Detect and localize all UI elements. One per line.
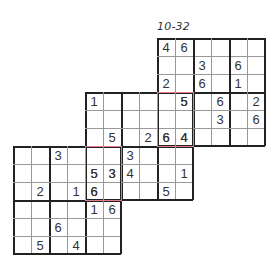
sudoku-cell[interactable] (103, 146, 121, 164)
sudoku-cell[interactable] (157, 146, 175, 164)
sudoku-cell[interactable]: 2 (157, 74, 175, 92)
sudoku-cell[interactable]: 4 (67, 236, 85, 254)
sudoku-cell[interactable] (31, 164, 49, 182)
sudoku-cell[interactable]: 1 (229, 74, 247, 92)
sudoku-cell[interactable]: 6 (211, 92, 229, 110)
sudoku-cell[interactable]: 5 (85, 164, 103, 182)
sudoku-cell[interactable] (85, 146, 103, 164)
sudoku-cell[interactable]: 6 (103, 200, 121, 218)
sudoku-cell[interactable] (13, 146, 31, 164)
sudoku-cell[interactable] (139, 92, 157, 110)
sudoku-cell[interactable]: 5 (157, 182, 175, 200)
sudoku-cell[interactable] (229, 92, 247, 110)
sudoku-cell[interactable] (49, 200, 67, 218)
sudoku-cell[interactable] (49, 236, 67, 254)
sudoku-cell[interactable]: 2 (247, 92, 265, 110)
sudoku-cell[interactable] (211, 38, 229, 56)
sudoku-cell[interactable] (139, 164, 157, 182)
sudoku-cell[interactable]: 6 (247, 110, 265, 128)
sudoku-cell[interactable] (175, 182, 193, 200)
sudoku-cell[interactable] (211, 74, 229, 92)
sudoku-cell[interactable]: 6 (157, 128, 175, 146)
sudoku-cell[interactable] (103, 110, 121, 128)
grid-bottom-left: 35321616654 (13, 146, 121, 254)
sudoku-cell[interactable] (31, 218, 49, 236)
sudoku-cell[interactable]: 1 (85, 92, 103, 110)
sudoku-cell[interactable]: 5 (103, 128, 121, 146)
sudoku-cell[interactable]: 4 (121, 164, 139, 182)
sudoku-cell[interactable] (67, 164, 85, 182)
sudoku-cell[interactable] (193, 38, 211, 56)
sudoku-cell[interactable]: 1 (67, 182, 85, 200)
sudoku-cell[interactable] (67, 146, 85, 164)
sudoku-cell[interactable]: 1 (175, 164, 193, 182)
sudoku-cell[interactable] (211, 56, 229, 74)
sudoku-cell[interactable] (49, 164, 67, 182)
sudoku-cell[interactable] (13, 164, 31, 182)
sudoku-cell[interactable]: 3 (103, 164, 121, 182)
sudoku-cell[interactable]: 5 (175, 92, 193, 110)
sudoku-cell[interactable]: 5 (31, 236, 49, 254)
sudoku-cell[interactable] (175, 56, 193, 74)
sudoku-cell[interactable] (229, 38, 247, 56)
sudoku-cell[interactable]: 6 (193, 74, 211, 92)
sudoku-cell[interactable]: 1 (85, 200, 103, 218)
sudoku-cell[interactable] (157, 110, 175, 128)
sudoku-cell[interactable]: 2 (31, 182, 49, 200)
sudoku-cell[interactable] (103, 218, 121, 236)
sudoku-cell[interactable] (13, 236, 31, 254)
sudoku-cell[interactable]: 6 (175, 38, 193, 56)
sudoku-cell[interactable] (13, 182, 31, 200)
sudoku-cell[interactable] (31, 200, 49, 218)
sudoku-cell[interactable] (157, 92, 175, 110)
sudoku-cell[interactable] (139, 110, 157, 128)
sudoku-cell[interactable] (121, 128, 139, 146)
sudoku-cell[interactable]: 3 (211, 110, 229, 128)
sudoku-cell[interactable]: 4 (157, 38, 175, 56)
sudoku-cell[interactable] (247, 56, 265, 74)
sudoku-cell[interactable] (121, 182, 139, 200)
sudoku-cell[interactable] (175, 146, 193, 164)
sudoku-cell[interactable] (85, 218, 103, 236)
sudoku-cell[interactable] (103, 92, 121, 110)
sudoku-cell[interactable] (13, 218, 31, 236)
sudoku-cell[interactable] (139, 182, 157, 200)
sudoku-cell[interactable] (85, 236, 103, 254)
sudoku-cell[interactable] (247, 38, 265, 56)
sudoku-cell[interactable]: 3 (49, 146, 67, 164)
sudoku-cell[interactable] (121, 110, 139, 128)
sudoku-cell[interactable] (103, 236, 121, 254)
sudoku-cell[interactable] (67, 218, 85, 236)
sudoku-cell[interactable] (67, 200, 85, 218)
grid-line-horizontal (13, 218, 121, 219)
sudoku-cell[interactable] (157, 56, 175, 74)
sudoku-cell[interactable] (193, 92, 211, 110)
sudoku-cell[interactable] (121, 92, 139, 110)
sudoku-cell[interactable]: 6 (49, 218, 67, 236)
sudoku-cell[interactable] (193, 110, 211, 128)
sudoku-cell[interactable] (157, 164, 175, 182)
sudoku-cell[interactable] (193, 128, 211, 146)
puzzle-title: 10-32 (157, 20, 190, 33)
sudoku-cell[interactable] (247, 74, 265, 92)
sudoku-cell[interactable] (211, 128, 229, 146)
sudoku-cell[interactable] (31, 146, 49, 164)
sudoku-cell[interactable]: 6 (85, 182, 103, 200)
sudoku-cell[interactable] (229, 110, 247, 128)
sudoku-cell[interactable] (103, 182, 121, 200)
sudoku-cell[interactable]: 2 (139, 128, 157, 146)
sudoku-cell[interactable]: 3 (193, 56, 211, 74)
sudoku-cell[interactable] (229, 128, 247, 146)
sudoku-cell[interactable] (175, 74, 193, 92)
sudoku-cell[interactable]: 6 (229, 56, 247, 74)
sudoku-cell[interactable] (247, 128, 265, 146)
sudoku-cell[interactable]: 3 (121, 146, 139, 164)
sudoku-cell[interactable] (175, 110, 193, 128)
sudoku-cell[interactable] (85, 110, 103, 128)
sudoku-cell[interactable] (49, 182, 67, 200)
sudoku-cell[interactable] (139, 146, 157, 164)
sudoku-cell[interactable] (13, 200, 31, 218)
grid-line-vertical (175, 92, 176, 200)
sudoku-cell[interactable] (85, 128, 103, 146)
sudoku-cell[interactable]: 4 (175, 128, 193, 146)
